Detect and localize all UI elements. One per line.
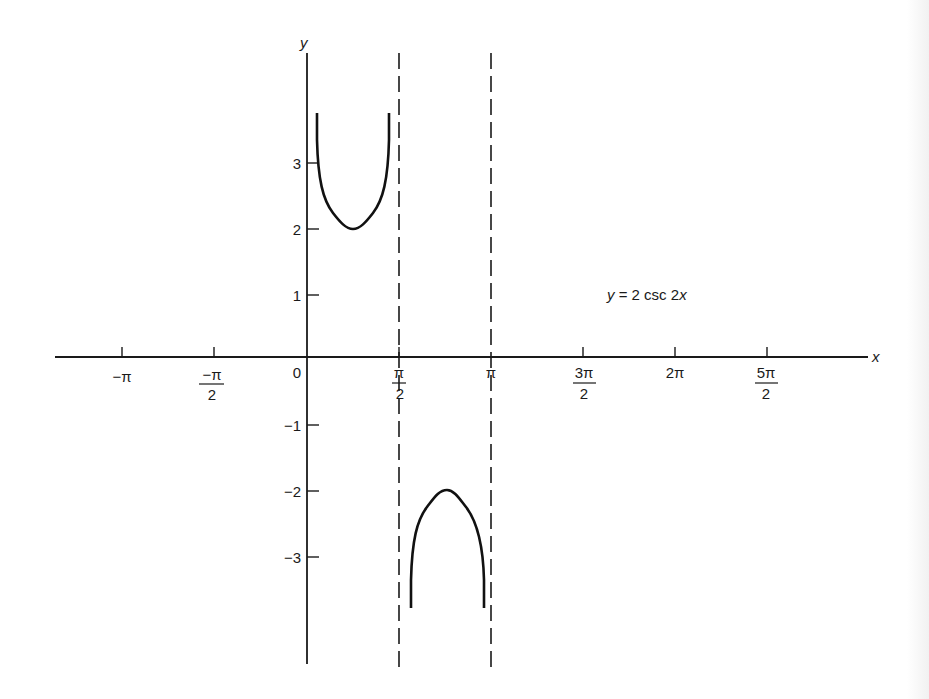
y-tick-label-neg3: −3 [284, 549, 301, 566]
x-tick-label-neg-pi-half-den: 2 [208, 386, 216, 403]
x-axis-label: x [871, 348, 880, 365]
x-tick-label-pi: π [486, 364, 496, 381]
y-tick-label-3: 3 [293, 155, 301, 172]
x-tick-label-five-pi-half-den: 2 [762, 385, 770, 402]
y-ticks [307, 163, 319, 557]
x-tick-label-neg-pi: −π [112, 368, 131, 385]
y-tick-label-1: 1 [293, 287, 301, 304]
x-tick-label-three-pi-half-den: 2 [580, 385, 588, 402]
x-tick-label-neg-pi-half-num: −π [202, 366, 221, 383]
x-tick-label-pi-half-num: π [394, 364, 404, 381]
curve-branch-negative [411, 490, 484, 608]
x-tick-label-two-pi: 2π [666, 364, 685, 381]
y-axis-label: y [299, 34, 309, 51]
equation-body: = 2 csc 2 [615, 286, 680, 303]
x-tick-label-three-pi-half-num: 3π [575, 364, 594, 381]
y-tick-label-neg2: −2 [284, 483, 301, 500]
x-ticks [122, 347, 767, 357]
x-tick-label-five-pi-half-num: 5π [757, 364, 776, 381]
equation-x: x [678, 286, 687, 303]
y-tick-label-2: 2 [293, 221, 301, 238]
origin-label: 0 [293, 364, 301, 381]
curve-branch-positive [317, 113, 389, 229]
equation-label: y = 2 csc 2x [606, 286, 687, 303]
y-tick-label-neg1: −1 [284, 417, 301, 434]
x-tick-label-pi-half-den: 2 [396, 385, 404, 402]
chart-canvas: y x −π −π 2 0 π 2 π 3π 2 2π 5π 2 3 2 1 −… [0, 0, 929, 699]
